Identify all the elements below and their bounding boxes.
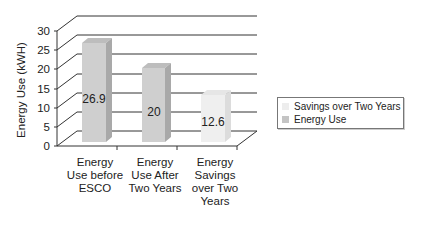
chart-legend: Savings over Two Years Energy Use <box>277 97 404 129</box>
svg-text:15: 15 <box>37 83 50 95</box>
svg-text:25: 25 <box>37 44 50 56</box>
svg-text:10: 10 <box>37 102 50 114</box>
legend-swatch-icon <box>282 103 289 110</box>
svg-text:20: 20 <box>147 105 161 119</box>
category-label: EnergyUse AfterTwo Years <box>124 156 186 195</box>
svg-text:5: 5 <box>44 121 50 133</box>
svg-text:12.6: 12.6 <box>201 115 225 129</box>
bar-energy-use-after: 20 <box>142 63 171 142</box>
svg-text:0: 0 <box>44 140 50 152</box>
svg-text:20: 20 <box>37 63 50 75</box>
bar-energy-savings: 12.6 <box>201 90 231 142</box>
category-label: EnergyUse beforeESCO <box>64 156 126 195</box>
category-label: EnergySavingsover TwoYears <box>184 156 246 208</box>
svg-text:26.9: 26.9 <box>82 92 106 106</box>
svg-text:30: 30 <box>37 25 50 37</box>
y-axis-label: Energy Use (kWH) <box>15 42 27 138</box>
legend-swatch-icon <box>282 116 289 123</box>
bar-energy-use-before: 26.9 <box>82 38 112 142</box>
y-tick-labels: 0 5 10 15 20 25 30 <box>37 25 50 152</box>
legend-item-savings: Savings over Two Years <box>282 101 401 112</box>
legend-item-energy-use: Energy Use <box>282 114 346 125</box>
